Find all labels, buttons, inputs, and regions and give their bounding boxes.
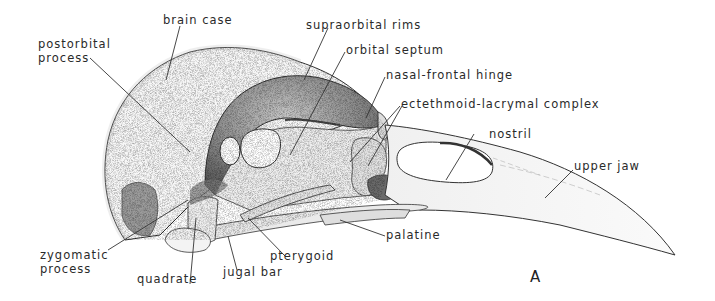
label-nostril: nostril [489,128,532,141]
label-quadrate: quadrate [137,273,197,286]
label-zygomatic-line1: zygomatic [40,249,108,262]
label-postorbital-line1: postorbital [38,38,111,51]
label-nasal-frontal-hinge: nasal-frontal hinge [386,69,513,82]
label-ectethmoid-lacrymal-complex: ectethmoid-lacrymal complex [401,98,600,111]
label-supraorbital-rims: supraorbital rims [306,19,421,32]
label-postorbital-line2: process [38,52,89,65]
label-jugal-bar: jugal bar [223,266,283,279]
label-pterygoid: pterygoid [270,250,334,263]
panel-letter: A [530,268,540,286]
label-palatine: palatine [386,229,441,242]
label-upper-jaw: upper jaw [574,160,640,173]
label-zygomatic-line2: process [40,263,91,276]
label-orbital-septum: orbital septum [346,44,444,57]
skull-diagram: brain case postorbital process supraorbi… [0,0,715,301]
label-brain-case: brain case [163,14,233,27]
